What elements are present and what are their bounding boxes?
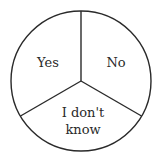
segment-label-dont-know-line1: I don't [62,105,105,120]
segment-label-yes: Yes [36,55,59,70]
segment-label-no: No [106,55,125,70]
segment-label-dont-know-line2: know [65,122,100,137]
three-part-circle-diagram: Yes No I don't know [0,0,162,159]
